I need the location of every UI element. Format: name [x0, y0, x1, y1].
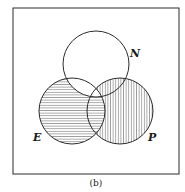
figure-caption: (b): [90, 178, 103, 188]
set-p-label: P: [147, 131, 157, 144]
set-e-label: E: [32, 131, 42, 144]
venn-diagram: N E P (b): [0, 0, 185, 192]
set-n-label: N: [129, 47, 141, 60]
